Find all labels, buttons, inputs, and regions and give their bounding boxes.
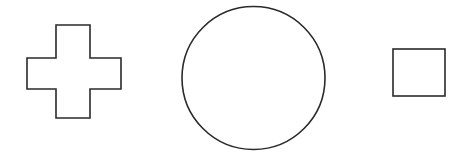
- circle-shape: [182, 7, 325, 150]
- shapes-svg: [0, 0, 467, 157]
- diagram-canvas: [0, 0, 467, 157]
- square-shape: [393, 49, 445, 96]
- cross-shape: [27, 25, 121, 118]
